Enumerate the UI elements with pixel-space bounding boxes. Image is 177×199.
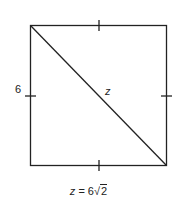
formula-radicand: 2 [100, 184, 107, 197]
diagonal-label: z [105, 86, 111, 97]
diagonal [31, 26, 167, 166]
formula-equals: = 6 [75, 185, 94, 197]
side-label: 6 [15, 84, 21, 95]
square-diagram [0, 0, 177, 199]
formula: z = 6√2 [0, 184, 177, 197]
